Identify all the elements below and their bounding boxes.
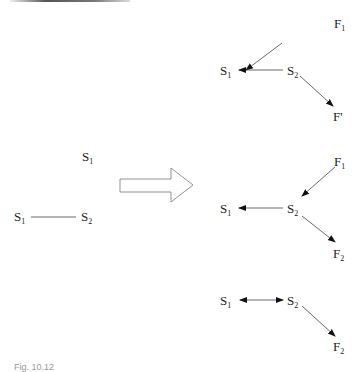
row2-f2: F2 <box>333 247 344 265</box>
row2-s1: S1 <box>220 202 231 220</box>
row3-s2: S2 <box>287 294 298 312</box>
node-s2-left: S2 <box>81 210 92 228</box>
node-s1-top: S1 <box>82 150 93 168</box>
row1-f1: F1 <box>334 17 345 35</box>
row1-fprime: F' <box>333 110 343 123</box>
row3-s1: S1 <box>220 294 231 312</box>
row1-s2: S2 <box>287 64 298 82</box>
figure-caption: Fig. 10.12 <box>14 362 54 372</box>
row2-s2: S2 <box>287 202 298 220</box>
hollow-right-arrow-icon <box>120 168 193 202</box>
row3-f2: F2 <box>333 340 344 358</box>
node-s1-left: S1 <box>14 210 25 228</box>
row2-f1: F1 <box>334 155 345 173</box>
row1-s1: S1 <box>220 64 231 82</box>
